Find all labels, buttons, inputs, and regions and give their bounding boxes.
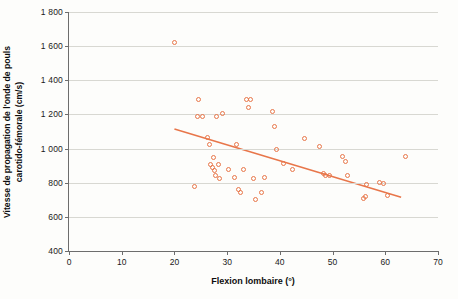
x-tick-label: 10: [117, 257, 126, 267]
data-point: [302, 136, 307, 141]
data-point: [363, 194, 368, 199]
data-point: [246, 105, 251, 110]
y-axis-label-line2: carotido-fémorale (cm/s): [14, 12, 30, 252]
gridline: [69, 114, 438, 115]
gridline: [69, 149, 438, 150]
x-tick-label: 60: [381, 257, 390, 267]
data-point: [327, 173, 332, 178]
x-tick-mark: [333, 251, 334, 255]
y-tick-label: 400: [48, 246, 63, 256]
data-point: [238, 190, 243, 195]
x-tick-mark: [385, 251, 386, 255]
y-tick-mark: [65, 149, 69, 150]
y-tick-label: 1 200: [41, 109, 63, 119]
x-tick-label: 50: [328, 257, 337, 267]
x-tick-mark: [122, 251, 123, 255]
data-point: [251, 176, 256, 181]
y-tick-mark: [65, 183, 69, 184]
x-tick-label: 30: [222, 257, 231, 267]
x-tick-label: 70: [433, 257, 442, 267]
y-tick-mark: [65, 217, 69, 218]
x-axis-label: Flexion lombaire (°): [68, 276, 438, 286]
gridline: [69, 80, 438, 81]
data-point: [196, 97, 201, 102]
x-tick-mark: [69, 251, 70, 255]
x-tick-label: 20: [170, 257, 179, 267]
data-point: [262, 175, 267, 180]
data-point: [216, 162, 221, 167]
data-point: [290, 167, 295, 172]
data-point: [381, 181, 386, 186]
data-point: [317, 144, 322, 149]
x-tick-mark: [438, 251, 439, 255]
y-tick-label: 800: [48, 178, 63, 188]
y-tick-mark: [65, 114, 69, 115]
data-point: [211, 155, 216, 160]
gridline: [69, 217, 438, 218]
data-point: [343, 159, 348, 164]
y-tick-label: 1 600: [41, 41, 63, 51]
x-tick-label: 40: [275, 257, 284, 267]
data-point: [345, 173, 350, 178]
data-point: [241, 167, 246, 172]
gridline: [69, 12, 438, 13]
gridline: [69, 46, 438, 47]
y-tick-label: 1 400: [41, 75, 63, 85]
data-point: [340, 154, 345, 159]
y-tick-label: 1 800: [41, 7, 63, 17]
y-tick-label: 600: [48, 212, 63, 222]
data-point: [274, 147, 279, 152]
y-tick-mark: [65, 12, 69, 13]
y-tick-label: 1 000: [41, 144, 63, 154]
x-tick-mark: [174, 251, 175, 255]
chart-figure: Vitesse de propagation de l'onde de poul…: [0, 0, 458, 299]
plot-area: 4006008001 0001 2001 4001 6001 800010203…: [68, 12, 438, 252]
x-tick-mark: [227, 251, 228, 255]
data-point: [385, 193, 390, 198]
trendline: [69, 12, 438, 251]
x-tick-mark: [280, 251, 281, 255]
data-point: [364, 182, 369, 187]
data-point: [207, 142, 212, 147]
y-tick-mark: [65, 80, 69, 81]
y-tick-mark: [65, 46, 69, 47]
data-point: [272, 124, 277, 129]
x-tick-label: 0: [67, 257, 72, 267]
data-point: [234, 142, 239, 147]
